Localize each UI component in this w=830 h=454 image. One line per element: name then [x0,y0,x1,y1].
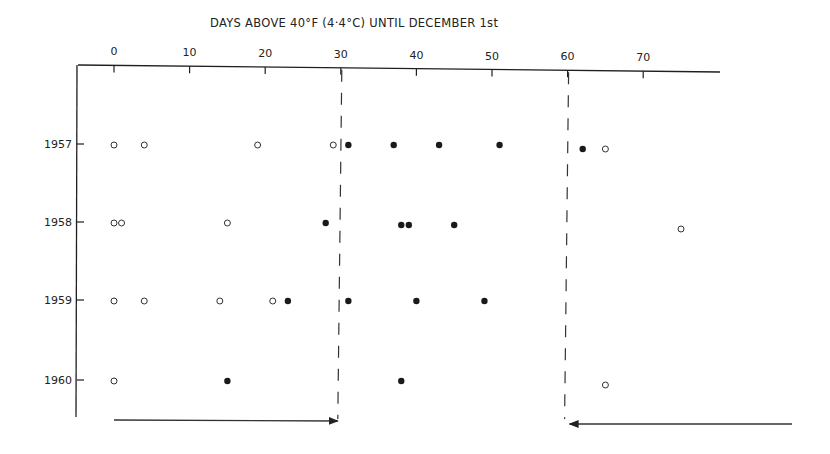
open-circle-marker [224,220,230,226]
x-tick-label: 40 [409,49,423,62]
x-tick-label: 20 [258,47,272,60]
year-label: 1959 [44,294,72,307]
x-tick-label: 10 [183,46,197,59]
y-axis-line [76,65,77,417]
data-points [111,142,684,388]
x-tick-label: 30 [334,48,348,61]
open-circle-marker [255,142,261,148]
open-circle-marker [678,226,684,232]
open-circle-marker [111,298,117,304]
year-label: 1957 [44,138,72,151]
threshold-lines [338,70,569,419]
dashed-threshold-line [338,70,342,419]
chart-title: DAYS ABOVE 40°F (4·4°C) UNTIL DECEMBER 1… [210,16,498,30]
x-axis-line [78,65,720,72]
x-tick-label: 70 [636,51,650,64]
filled-circle-marker [406,222,412,228]
filled-circle-marker [413,298,419,304]
chart: DAYS ABOVE 40°F (4·4°C) UNTIL DECEMBER 1… [0,0,830,454]
filled-circle-marker [345,142,351,148]
year-label: 1960 [44,374,72,387]
filled-circle-marker [285,298,291,304]
open-circle-marker [141,142,147,148]
open-circle-marker [111,220,117,226]
range-arrows [114,420,792,424]
open-circle-marker [141,298,147,304]
dashed-threshold-line [565,72,569,419]
filled-circle-marker [391,142,397,148]
filled-circle-marker [451,222,457,228]
filled-circle-marker [345,298,351,304]
filled-circle-marker [496,142,502,148]
open-circle-marker [119,220,125,226]
filled-circle-marker [436,142,442,148]
filled-circle-marker [481,298,487,304]
x-axis: 010203040506070 [78,45,720,78]
filled-circle-marker [224,378,230,384]
filled-circle-marker [322,220,328,226]
open-circle-marker [111,378,117,384]
arrow-right-icon [114,420,338,421]
x-tick-label: 60 [561,50,575,63]
open-circle-marker [217,298,223,304]
open-circle-marker [111,142,117,148]
filled-circle-marker [580,146,586,152]
x-tick-label: 50 [485,50,499,63]
open-circle-marker [330,142,336,148]
open-circle-marker [602,146,608,152]
year-label: 1958 [44,216,72,229]
filled-circle-marker [398,378,404,384]
open-circle-marker [602,382,608,388]
open-circle-marker [270,298,276,304]
y-axis: 1957195819591960 [44,65,84,417]
filled-circle-marker [398,222,404,228]
x-tick-label: 0 [111,45,118,58]
